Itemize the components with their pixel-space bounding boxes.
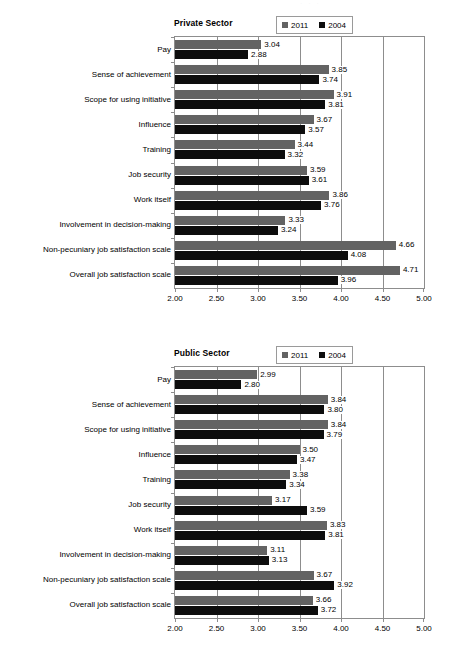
category-group: Influence3.503.47 — [175, 442, 424, 467]
x-tick-label: 3.00 — [250, 624, 266, 633]
y-tick-mark — [171, 238, 175, 239]
bar-2011 — [175, 496, 272, 505]
category-group: Sense of achievement3.853.74 — [175, 62, 424, 87]
y-tick-mark — [171, 392, 175, 393]
bar-row: 3.86 — [175, 191, 424, 200]
bar-2004 — [175, 581, 334, 590]
bar-row: 3.11 — [175, 546, 424, 555]
x-tick-mark — [217, 288, 218, 292]
bar-2011 — [175, 395, 328, 404]
bar-row: 3.61 — [175, 176, 424, 185]
bar-2004 — [175, 75, 319, 84]
bar-value-label: 3.96 — [340, 276, 358, 284]
x-tick-mark — [175, 618, 176, 622]
bar-value-label: 3.24 — [280, 226, 298, 234]
category-label: Job security — [128, 171, 171, 179]
bar-row: 3.72 — [175, 606, 424, 615]
bar-value-label: 3.91 — [336, 91, 354, 99]
bar-row: 3.96 — [175, 276, 424, 285]
x-tick-mark — [258, 618, 259, 622]
y-tick-mark — [171, 467, 175, 468]
bar-row: 4.66 — [175, 241, 424, 250]
bar-value-label: 3.83 — [329, 521, 347, 529]
category-group: Scope for using initiative3.843.79 — [175, 417, 424, 442]
y-tick-mark — [171, 87, 175, 88]
legend-item-2004: 2004 — [319, 351, 346, 360]
bar-2011 — [175, 65, 329, 74]
x-tick-mark — [423, 288, 424, 292]
bar-value-label: 3.76 — [323, 201, 341, 209]
category-group: Overall job satisfaction scale3.663.72 — [175, 593, 424, 618]
category-label: Pay — [157, 376, 171, 384]
bar-value-label: 3.67 — [316, 116, 334, 124]
category-group: Pay3.042.88 — [175, 37, 424, 62]
bar-row: 3.67 — [175, 571, 424, 580]
category-label: Sense of achievement — [92, 401, 171, 409]
legend: 2011 2004 — [276, 16, 353, 34]
category-group: Involvement in decision-making3.113.13 — [175, 543, 424, 568]
bar-value-label: 3.50 — [302, 446, 320, 454]
category-group: Sense of achievement3.843.80 — [175, 392, 424, 417]
bar-value-label: 3.33 — [287, 216, 305, 224]
bar-row: 3.44 — [175, 140, 424, 149]
x-tick-mark — [341, 618, 342, 622]
category-group: Job security3.593.61 — [175, 163, 424, 188]
bar-2011 — [175, 266, 400, 275]
bar-2011 — [175, 191, 329, 200]
category-label: Work itself — [134, 196, 171, 204]
x-tick-label: 4.50 — [375, 294, 391, 303]
bar-row: 3.81 — [175, 100, 424, 109]
x-tick-label: 2.00 — [167, 294, 183, 303]
legend-swatch-2004 — [319, 22, 325, 28]
bar-row: 3.04 — [175, 40, 424, 49]
category-label: Job security — [128, 501, 171, 509]
x-tick-mark — [217, 618, 218, 622]
legend-label-2011: 2011 — [291, 21, 308, 30]
bar-2011 — [175, 546, 267, 555]
bar-2011 — [175, 571, 314, 580]
bar-2011 — [175, 241, 396, 250]
legend-swatch-2004 — [319, 352, 325, 358]
bar-value-label: 3.47 — [299, 456, 317, 464]
y-tick-mark — [171, 263, 175, 264]
bar-value-label: 3.72 — [320, 606, 338, 614]
category-label: Training — [142, 476, 171, 484]
y-tick-mark — [171, 37, 175, 38]
bar-value-label: 3.13 — [271, 556, 289, 564]
legend-label-2004: 2004 — [328, 351, 346, 360]
bar-value-label: 3.84 — [330, 396, 348, 404]
bar-value-label: 3.92 — [336, 581, 354, 589]
bar-2004 — [175, 430, 324, 439]
category-label: Overall job satisfaction scale — [70, 271, 171, 279]
bar-value-label: 3.86 — [331, 191, 349, 199]
bar-2004 — [175, 201, 321, 210]
x-tick-mark — [300, 288, 301, 292]
category-group: Job security3.173.59 — [175, 493, 424, 518]
bar-2004 — [175, 455, 297, 464]
category-group: Training3.383.34 — [175, 467, 424, 492]
y-tick-mark — [171, 518, 175, 519]
bar-row: 3.67 — [175, 115, 424, 124]
legend-swatch-2011 — [282, 352, 288, 358]
category-label: Influence — [139, 121, 171, 129]
legend-item-2011: 2011 — [282, 21, 308, 30]
chart-title: Private Sector — [174, 18, 233, 28]
legend: 2011 2004 — [276, 346, 353, 364]
x-tick-label: 3.00 — [250, 294, 266, 303]
x-tick-label: 3.50 — [292, 624, 308, 633]
x-tick-label: 2.50 — [209, 294, 225, 303]
bar-value-label: 4.71 — [402, 266, 420, 274]
category-label: Overall job satisfaction scale — [70, 601, 171, 609]
bar-value-label: 4.66 — [398, 241, 416, 249]
y-tick-mark — [171, 213, 175, 214]
y-tick-mark — [171, 137, 175, 138]
bar-2011 — [175, 216, 285, 225]
bar-2004 — [175, 380, 241, 389]
bar-row: 2.88 — [175, 50, 424, 59]
x-tick-label: 5.00 — [416, 294, 432, 303]
bar-2011 — [175, 115, 314, 124]
x-tick-label: 2.00 — [167, 624, 183, 633]
bar-row: 3.34 — [175, 480, 424, 489]
bar-row: 3.74 — [175, 75, 424, 84]
bar-row: 3.50 — [175, 445, 424, 454]
